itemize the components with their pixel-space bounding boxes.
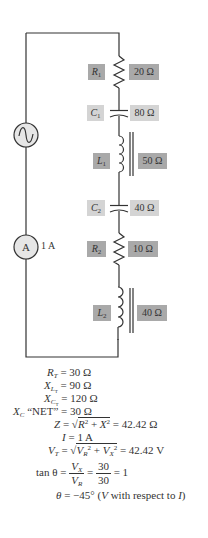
value-l2: 40 Ω: [137, 305, 167, 321]
eq-tan-theta: tan θ = VXVR = 3030 = 1: [36, 460, 128, 487]
ac-source-icon: [14, 123, 38, 147]
value-l1: 50 Ω: [138, 153, 167, 169]
value-c2: 40 Ω: [130, 200, 159, 216]
ammeter-icon: A: [14, 235, 38, 259]
value-r1: 20 Ω: [129, 64, 159, 80]
eq-rt: RT = 30 Ω: [47, 366, 91, 378]
svg-text:A: A: [22, 241, 30, 253]
label-r1: R1: [88, 64, 105, 80]
wire-top: [26, 33, 119, 56]
inductor-l2-icon: [118, 287, 123, 327]
inductor-l1-icon: [119, 136, 124, 172]
value-c1: 80 Ω: [130, 105, 159, 121]
label-c1: C1: [87, 105, 104, 121]
eq-xlt: XLT = 90 Ω: [44, 379, 91, 392]
eq-impedance: Z = √R2 + X2 = 42.42 Ω: [54, 418, 157, 430]
label-r2: R2: [87, 241, 106, 257]
eq-voltage: VT = √VR2 + VX2 = 42.42 V: [48, 444, 164, 456]
resistor-r2-icon: [114, 233, 124, 265]
eq-current: I = 1 A: [62, 431, 93, 443]
value-r2: 10 Ω: [128, 241, 158, 257]
eq-theta: θ = −45° (V with respect to I): [56, 489, 185, 501]
resistor-r1-icon: [114, 56, 124, 88]
label-l2: L2: [93, 305, 111, 321]
eq-xct: XCT = 120 Ω: [44, 392, 98, 405]
ammeter-reading: 1 A: [41, 240, 55, 251]
eq-xc-net: XC “NET” = 30 Ω: [13, 405, 92, 417]
label-l1: L1: [93, 153, 110, 169]
label-c2: C2: [87, 200, 105, 216]
